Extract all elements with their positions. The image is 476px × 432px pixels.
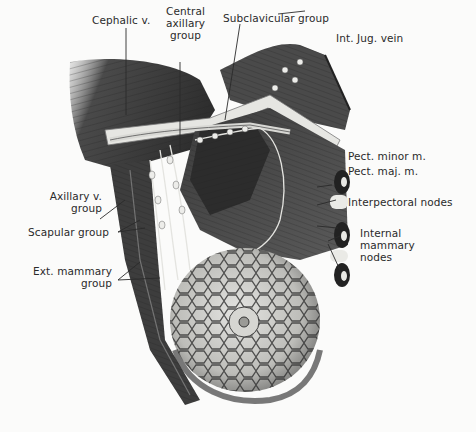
anatomy-figure: Cephalic v. Central axillary group Subcl… — [0, 0, 476, 432]
label-axillary-v-group: Axillary v. group — [40, 190, 102, 214]
label-ext-mammary-group: Ext. mammary group — [30, 265, 112, 289]
label-central-axillary-group: Central axillary group — [166, 5, 205, 41]
label-pect-maj: Pect. maj. m. — [348, 165, 418, 177]
label-pect-minor: Pect. minor m. — [348, 150, 426, 162]
label-subclavicular-group: Subclavicular group — [223, 12, 329, 24]
label-scapular-group: Scapular group — [28, 226, 109, 238]
label-cephalic-vein: Cephalic v. — [92, 14, 150, 26]
breast-lymphatics-illustration — [0, 0, 476, 432]
label-interpectoral-nodes: Interpectoral nodes — [348, 196, 453, 208]
nipple — [239, 317, 249, 327]
label-internal-mammary-nodes: Internal mammary nodes — [360, 227, 415, 263]
breast — [170, 248, 320, 401]
label-int-jug-vein: Int. Jug. vein — [336, 32, 403, 44]
